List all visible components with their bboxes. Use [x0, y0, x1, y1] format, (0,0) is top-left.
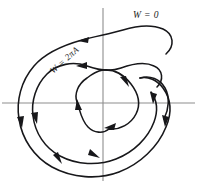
arrow-head-inner-bottom	[104, 123, 116, 130]
middle-spiral-curve	[33, 63, 162, 163]
contour-figure: W = 0 W = 2πA	[0, 0, 197, 187]
arrow-head-bottom-middle	[88, 149, 100, 158]
arrow-head-bottom-left-outer	[53, 152, 62, 164]
arrow-head-inner-upper-right	[120, 76, 129, 87]
contour-canvas	[0, 0, 197, 187]
inner-loop-curve	[76, 70, 138, 132]
label-outer-contour: W = 0	[133, 10, 159, 20]
flow-arrows-group	[17, 37, 169, 164]
